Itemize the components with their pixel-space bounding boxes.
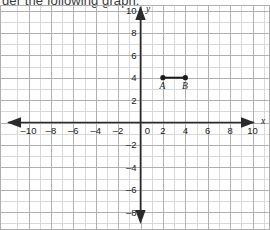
x-tick-label: –4	[90, 125, 101, 136]
y-axis-arrow-down	[135, 210, 145, 224]
data-point-b	[183, 75, 188, 80]
data-point-a	[160, 75, 165, 80]
y-tick-label: –6	[126, 184, 137, 195]
graph-svg: –10–8–6–4–20246810108642–2–4–6–8xy AB	[0, 5, 270, 230]
x-tick-label: 4	[183, 125, 188, 136]
y-tick-label: 6	[131, 50, 136, 61]
x-tick-label: –2	[113, 125, 124, 136]
y-tick-label: 8	[131, 27, 136, 38]
point-label-b: B	[182, 81, 188, 91]
x-tick-label: 2	[160, 125, 165, 136]
x-tick-label: –8	[46, 125, 57, 136]
x-tick-label: –6	[68, 125, 79, 136]
point-label-a: A	[158, 81, 165, 91]
y-tick-label: –2	[126, 139, 137, 150]
y-tick-label: 2	[131, 95, 136, 106]
x-tick-label: –10	[21, 125, 37, 136]
y-axis-arrow-up	[135, 6, 145, 20]
coordinate-grid-plot: –10–8–6–4–20246810108642–2–4–6–8xy AB	[0, 5, 270, 230]
x-tick-label: 8	[227, 125, 232, 136]
x-tick-label-0: 0	[145, 125, 150, 136]
y-tick-label: –8	[126, 207, 137, 218]
figure-container: der the following graph. –10–8–6–4–20246…	[0, 0, 270, 230]
y-tick-label: –4	[126, 162, 137, 173]
y-tick-label: 4	[131, 72, 136, 83]
x-tick-label: 6	[205, 125, 210, 136]
y-tick-label: 10	[126, 5, 137, 16]
y-axis-name-label: y	[145, 5, 151, 14]
x-axis-name-label: x	[260, 116, 266, 126]
x-axis-arrow-left	[7, 117, 21, 127]
data-layer: AB	[158, 75, 187, 91]
x-tick-label: 10	[247, 125, 258, 136]
